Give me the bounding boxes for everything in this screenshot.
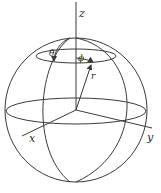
theta-label: θ [49, 48, 55, 58]
radius-label: r [91, 71, 96, 81]
r-vector [76, 65, 91, 110]
y-axis [76, 110, 152, 128]
z-axis-label: z [78, 7, 85, 20]
y-axis-label: y [146, 131, 154, 144]
x-axis-label: x [29, 132, 36, 145]
spherical-coordinates-diagram: z x y θ ϕ r [0, 0, 161, 193]
meridian-left [43, 38, 70, 182]
phi-label: ϕ [78, 53, 84, 63]
